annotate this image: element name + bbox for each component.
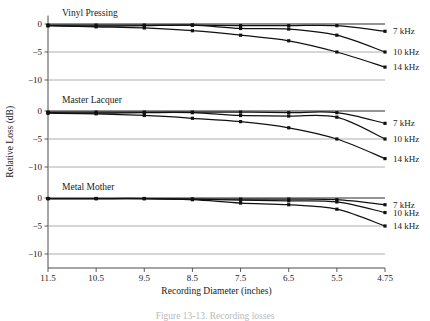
data-point	[287, 203, 290, 206]
figure-container: 0−5−10Vinyl Pressing7 kHz10 kHz14 kHz0−5…	[0, 0, 430, 321]
data-point	[191, 117, 194, 120]
data-point	[383, 224, 386, 227]
series-label-10-khz: 10 kHz	[393, 47, 419, 57]
data-point	[46, 112, 49, 115]
data-point	[46, 24, 49, 27]
data-point	[143, 197, 146, 200]
data-point	[383, 30, 386, 33]
recording-losses-chart: 0−5−10Vinyl Pressing7 kHz10 kHz14 kHz0−5…	[0, 0, 430, 321]
x-tick-label: 8.5	[187, 273, 199, 283]
y-tick-label: −5	[32, 134, 42, 144]
x-tick-label: 11.5	[40, 273, 56, 283]
x-tick-label: 10.5	[88, 273, 104, 283]
y-tick-label: −10	[28, 162, 43, 172]
series-label-10-khz: 10 kHz	[393, 208, 419, 218]
data-point	[335, 200, 338, 203]
series-label-7-khz: 7 kHz	[393, 118, 415, 128]
y-tick-label: −10	[28, 249, 43, 259]
data-point	[383, 211, 386, 214]
series-label-14-khz: 14 kHz	[393, 221, 419, 231]
data-point	[95, 112, 98, 115]
data-point	[143, 111, 146, 114]
data-point	[143, 26, 146, 29]
y-tick-label: −5	[32, 221, 42, 231]
data-point	[95, 197, 98, 200]
data-point	[383, 50, 386, 53]
panel-title: Master Lacquer	[62, 95, 123, 105]
x-tick-label: 9.5	[139, 273, 151, 283]
y-tick-label: −10	[28, 75, 43, 85]
data-point	[383, 137, 386, 140]
data-point	[239, 201, 242, 204]
y-tick-label: 0	[38, 193, 43, 203]
data-point	[287, 24, 290, 27]
data-point	[287, 199, 290, 202]
data-point	[239, 34, 242, 37]
data-point	[239, 120, 242, 123]
data-point	[287, 39, 290, 42]
data-point	[335, 208, 338, 211]
x-axis-title: Recording Diameter (inches)	[161, 286, 271, 297]
data-point	[335, 34, 338, 37]
series-label-14-khz: 14 kHz	[393, 62, 419, 72]
data-point	[191, 198, 194, 201]
data-point	[335, 24, 338, 27]
x-tick-label: 7.5	[235, 273, 247, 283]
data-point	[46, 197, 49, 200]
data-point	[239, 114, 242, 117]
data-point	[287, 114, 290, 117]
x-tick-label: 4.75	[377, 273, 393, 283]
x-tick-label: 5.5	[331, 273, 343, 283]
data-point	[335, 111, 338, 114]
data-point	[191, 111, 194, 114]
data-point	[239, 199, 242, 202]
data-point	[95, 25, 98, 28]
panel-title: Vinyl Pressing	[62, 8, 118, 18]
data-point	[335, 116, 338, 119]
data-point	[335, 137, 338, 140]
panel-title: Metal Mother	[62, 182, 115, 192]
data-point	[143, 114, 146, 117]
series-label-10-khz: 10 kHz	[393, 134, 419, 144]
chart-background	[0, 0, 430, 321]
data-point	[383, 157, 386, 160]
y-tick-label: −5	[32, 47, 42, 57]
data-point	[287, 111, 290, 114]
x-tick-label: 6.5	[283, 273, 295, 283]
y-tick-label: 0	[38, 106, 43, 116]
data-point	[191, 29, 194, 32]
data-point	[383, 203, 386, 206]
figure-caption: Figure 13-13. Recording losses	[156, 311, 275, 321]
data-point	[335, 50, 338, 53]
series-label-14-khz: 14 kHz	[393, 154, 419, 164]
data-point	[287, 126, 290, 129]
data-point	[191, 24, 194, 27]
data-point	[383, 122, 386, 125]
data-point	[239, 24, 242, 27]
data-point	[287, 27, 290, 30]
data-point	[239, 111, 242, 114]
data-point	[239, 27, 242, 30]
data-point	[383, 66, 386, 69]
y-tick-label: 0	[38, 19, 43, 29]
y-axis-title: Relative Loss (dB)	[5, 106, 16, 178]
series-label-7-khz: 7 kHz	[393, 26, 415, 36]
